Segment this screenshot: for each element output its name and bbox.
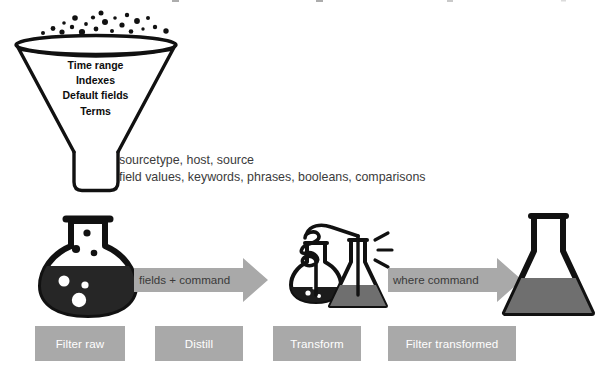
sparkle-icon <box>375 233 392 267</box>
stage-box-distill: Distill <box>155 326 243 361</box>
arrow-label-where-command: where command <box>393 274 479 286</box>
stage-box-transform: Transform <box>273 326 361 361</box>
round-flask-raw <box>38 219 138 318</box>
criteria-detail-line-1: sourcetype, host, source <box>119 152 425 169</box>
criteria-detail-line-2: field values, keywords, phrases, boolean… <box>119 169 425 186</box>
cropped-title-remnant <box>172 0 566 2</box>
stage-box-filter-transformed: Filter transformed <box>388 326 516 361</box>
distillation-apparatus <box>288 225 392 309</box>
unfiltered-data-dots <box>41 11 169 36</box>
funnel-criteria-item-terms: Terms <box>18 104 173 119</box>
funnel-criteria-item-default-fields: Default fields <box>18 88 173 103</box>
diagram-artwork <box>0 0 608 379</box>
arrow-label-fields-command: fields + command <box>139 274 230 286</box>
erlenmeyer-flask-large <box>500 216 600 318</box>
diagram-canvas: Time range Indexes Default fields Terms … <box>0 0 608 379</box>
funnel-criteria-item-time-range: Time range <box>18 58 173 73</box>
stage-box-filter-raw: Filter raw <box>35 326 125 361</box>
funnel-criteria-list: Time range Indexes Default fields Terms <box>18 58 173 119</box>
funnel-criteria-item-indexes: Indexes <box>18 73 173 88</box>
criteria-detail-text: sourcetype, host, source field values, k… <box>119 152 425 185</box>
